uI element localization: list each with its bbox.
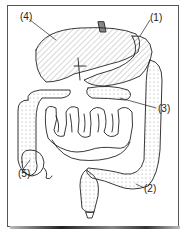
digestive-system-illustration (0, 0, 187, 236)
leader-4 (30, 20, 56, 40)
label-5: (5) (18, 169, 30, 179)
label-4: (4) (20, 12, 32, 22)
appendix (44, 168, 52, 179)
leader-1 (140, 20, 150, 36)
label-2: (2) (144, 184, 156, 194)
label-1: (1) (150, 13, 162, 23)
label-3: (3) (158, 104, 170, 114)
pancreas (87, 86, 131, 100)
